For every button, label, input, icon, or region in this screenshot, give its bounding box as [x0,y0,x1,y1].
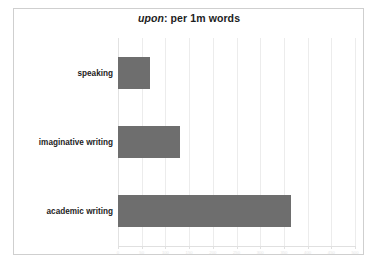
x-tick-label-100: 100 [162,250,169,255]
x-tick-label-250: 250 [233,250,240,255]
x-tick-label-400: 400 [304,250,311,255]
bar-academic-writing [118,195,291,227]
chart-title-italic: upon [138,12,164,24]
x-tick-label-50: 50 [139,250,144,255]
x-tick-label-450: 450 [328,250,335,255]
x-tick-label-0: 0 [117,250,119,255]
x-tick-mark-350 [284,246,285,249]
x-tick-mark-500 [355,246,356,249]
x-tick-mark-100 [165,246,166,249]
x-tick-mark-450 [331,246,332,249]
x-tick-label-300: 300 [257,250,264,255]
category-label-academic-writing: academic writing [47,207,113,216]
x-tick-label-200: 200 [209,250,216,255]
chart-title: upon: per 1m words [0,12,378,24]
category-label-imaginative-writing: imaginative writing [39,137,113,146]
x-axis: 050100150200250300350400450500 [118,246,355,262]
category-label-speaking: speaking [78,68,114,77]
x-tick-mark-200 [213,246,214,249]
plot-area: speakingimaginative writingacademic writ… [118,38,355,246]
x-tick-label-350: 350 [280,250,287,255]
chart-figure: upon: per 1m words speakingimaginative w… [0,0,378,269]
bar-imaginative-writing [118,126,180,158]
x-tick-mark-50 [142,246,143,249]
gridline-500 [355,38,356,246]
bar-row: imaginative writing [118,107,355,176]
x-tick-mark-400 [308,246,309,249]
x-tick-mark-150 [189,246,190,249]
chart-title-rest: : per 1m words [164,12,240,24]
bar-row: academic writing [118,177,355,246]
x-tick-mark-250 [237,246,238,249]
x-tick-label-500: 500 [352,250,359,255]
x-tick-label-150: 150 [186,250,193,255]
bar-speaking [118,57,150,89]
bar-row: speaking [118,38,355,107]
x-tick-mark-300 [260,246,261,249]
x-tick-mark-0 [118,246,119,249]
